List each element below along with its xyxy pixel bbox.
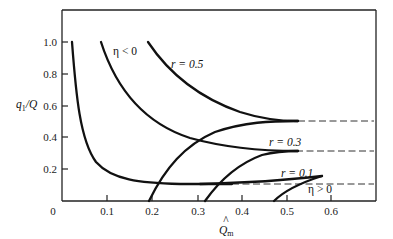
y-axis-title: q1/Q	[16, 98, 38, 113]
x-tick-label: 0.4	[235, 205, 249, 217]
svg-text:Qm: Qm	[219, 224, 234, 238]
x-tick-label: 0.2	[145, 205, 159, 217]
y-tick-label: 0.8	[43, 68, 57, 80]
x-tick-label: 0.3	[191, 205, 205, 217]
y-tick-labels: 0.2 0.4 0.6 0.8 1.0	[43, 36, 57, 175]
y-tick-label: 1.0	[43, 36, 57, 48]
x-tick-label: 0.1	[100, 205, 114, 217]
label-r01: r = 0.1	[281, 167, 313, 179]
y-ticks	[62, 42, 68, 169]
y-tick-label: 0.2	[43, 163, 57, 175]
label-eta-positive: η > 0	[308, 183, 332, 196]
x-tick-labels: 0 0.1 0.2 0.3 0.4 0.5 0.6	[50, 205, 338, 217]
x-tick-label: 0.6	[324, 205, 338, 217]
label-r03: r = 0.3	[269, 136, 302, 148]
x-ticks	[107, 195, 331, 201]
label-r05: r = 0.5	[171, 58, 204, 70]
curve-desc-r05	[148, 42, 298, 121]
x-axis-title: ^ Qm	[219, 214, 234, 238]
x-tick-label: 0.5	[280, 205, 294, 217]
curve-desc-r01	[72, 42, 232, 184]
y-tick-label: 0.4	[43, 131, 57, 143]
svg-text:q1/Q: q1/Q	[16, 98, 38, 113]
x-tick-label: 0	[50, 205, 56, 217]
label-eta-negative: η < 0	[113, 45, 137, 58]
curve-rise-r05	[149, 121, 298, 201]
chart-canvas: 0.2 0.4 0.6 0.8 1.0 0 0.1 0.2 0.3 0.4 0.…	[0, 0, 393, 239]
y-tick-label: 0.6	[43, 100, 57, 112]
